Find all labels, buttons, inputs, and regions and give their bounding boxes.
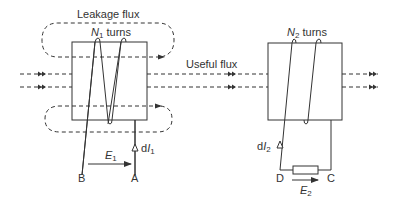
e2-subscript: 2	[307, 189, 311, 198]
leakage-flux-label: Leakage flux	[77, 9, 139, 20]
di1-label: dI1	[141, 143, 155, 156]
di1-arrow-icon	[132, 144, 138, 151]
n1-turns-label: N1 turns	[91, 27, 131, 40]
n2-turns-text: turns	[299, 26, 327, 38]
di2-subscript: 2	[266, 145, 270, 154]
terminal-c-label: C	[327, 173, 335, 184]
n1-turns-text: turns	[103, 26, 131, 38]
terminal-b-label: B	[78, 173, 85, 184]
terminal-d-label: D	[276, 173, 284, 184]
useful-flux-label: Useful flux	[186, 59, 237, 70]
n1-symbol: N	[91, 26, 99, 38]
upper-leakage-arrow-icon	[158, 55, 165, 60]
n2-turns-label: N2 turns	[287, 27, 327, 40]
primary-core	[72, 42, 147, 120]
di2-label: dI2	[257, 141, 271, 154]
e2-label: E2	[300, 185, 312, 198]
secondary-core	[268, 43, 342, 120]
transformer-diagram	[0, 0, 397, 202]
n2-symbol: N	[287, 26, 295, 38]
e1-subscript: 1	[112, 154, 116, 163]
lower-leakage-arrow-icon	[155, 104, 162, 109]
e1-label: E1	[105, 150, 117, 163]
di1-subscript: 1	[150, 147, 154, 156]
terminal-a-label: A	[131, 173, 138, 184]
load-resistor	[280, 166, 331, 174]
